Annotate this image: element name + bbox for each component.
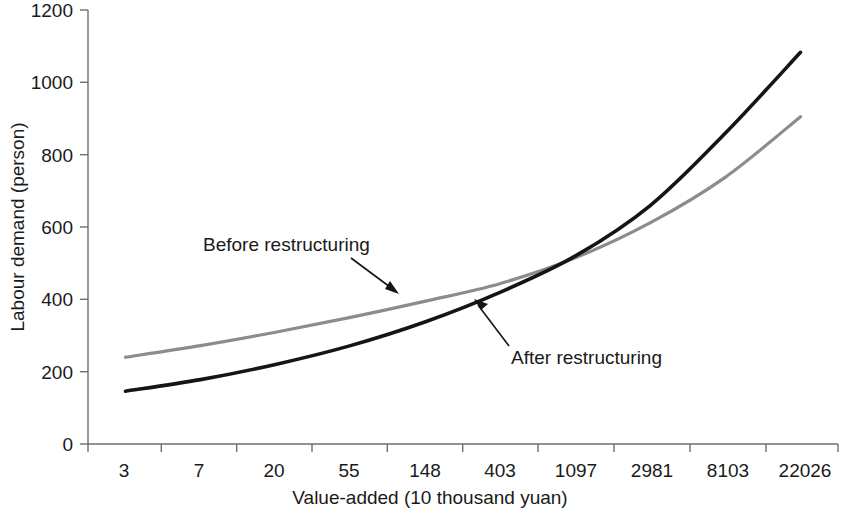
x-tick-label-8: 2981 <box>631 460 673 481</box>
x-tick-label-7: 1097 <box>555 460 597 481</box>
chart-background <box>0 0 842 513</box>
x-tick-label-4: 55 <box>338 460 359 481</box>
x-axis-title: Value-added (10 thousand yuan) <box>292 487 567 508</box>
x-tick-label-2: 7 <box>194 460 205 481</box>
y-tick-label-400: 400 <box>41 289 73 310</box>
y-axis-title: Labour demand (person) <box>7 122 28 331</box>
y-tick-label-1000: 1000 <box>31 72 73 93</box>
y-tick-label-1200: 1200 <box>31 0 73 21</box>
y-tick-label-800: 800 <box>41 145 73 166</box>
annotation-after-label: After restructuring <box>511 347 662 368</box>
x-tick-label-9: 8103 <box>707 460 749 481</box>
x-tick-label-10: 22026 <box>779 460 832 481</box>
x-tick-label-5: 148 <box>409 460 441 481</box>
y-tick-label-600: 600 <box>41 217 73 238</box>
y-tick-label-0: 0 <box>62 434 73 455</box>
x-tick-label-1: 3 <box>119 460 130 481</box>
chart-figure: 0 200 400 600 800 1000 1200 3 7 20 <box>0 0 842 513</box>
line-chart: 0 200 400 600 800 1000 1200 3 7 20 <box>0 0 842 513</box>
x-tick-label-6: 403 <box>484 460 516 481</box>
x-tick-label-3: 20 <box>263 460 284 481</box>
y-tick-label-200: 200 <box>41 362 73 383</box>
annotation-before-label: Before restructuring <box>203 234 370 255</box>
